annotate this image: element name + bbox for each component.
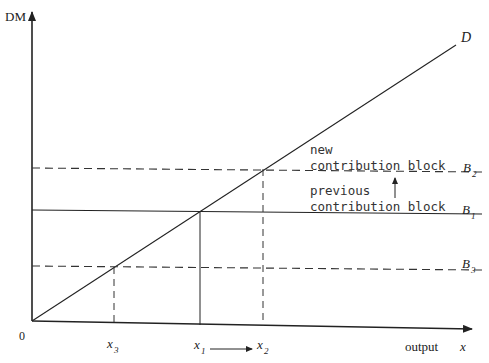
svg-text:1: 1 bbox=[471, 211, 476, 221]
previous-block-text-2: contribution block bbox=[310, 199, 446, 214]
svg-text:1: 1 bbox=[201, 346, 206, 356]
previous-block-text-1: previous bbox=[310, 183, 370, 198]
demand-line-d bbox=[32, 45, 456, 321]
b1-label: B 1 bbox=[462, 202, 476, 221]
block-line-b3 bbox=[32, 266, 482, 270]
x-axis-label: output bbox=[405, 339, 439, 354]
svg-text:3: 3 bbox=[113, 345, 119, 355]
b2-label: B 2 bbox=[463, 160, 477, 179]
new-block-text-1: new bbox=[310, 142, 333, 157]
x2-label: x 2 bbox=[256, 337, 269, 356]
b3-label: B 3 bbox=[462, 256, 476, 275]
x1-label: x 1 bbox=[193, 337, 206, 356]
svg-text:x: x bbox=[106, 336, 113, 351]
x-axis-var: x bbox=[459, 339, 466, 354]
x3-label: x 3 bbox=[106, 336, 119, 355]
x-axis bbox=[32, 321, 472, 329]
new-block-text-2: contribution block bbox=[310, 158, 446, 173]
svg-text:B: B bbox=[462, 256, 470, 271]
svg-text:2: 2 bbox=[472, 169, 477, 179]
y-axis-label: DM bbox=[5, 9, 26, 24]
svg-text:B: B bbox=[462, 202, 470, 217]
diagram: DM D 0 new contribution block previous c… bbox=[0, 0, 489, 363]
demand-label: D bbox=[460, 30, 471, 45]
origin-label: 0 bbox=[19, 329, 25, 343]
svg-text:x: x bbox=[193, 337, 200, 352]
svg-text:B: B bbox=[463, 160, 471, 175]
svg-text:2: 2 bbox=[264, 346, 269, 356]
svg-text:3: 3 bbox=[470, 265, 476, 275]
svg-text:x: x bbox=[256, 337, 263, 352]
